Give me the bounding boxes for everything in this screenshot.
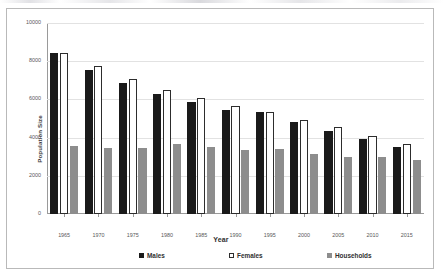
bar-females-2005: [334, 127, 342, 214]
bar-males-1965: [50, 53, 58, 214]
chart-legend: MalesFemalesHouseholds: [7, 252, 435, 264]
bar-males-1970: [85, 70, 93, 214]
x-axis-tick: [304, 214, 305, 217]
y-axis-tick-label: 8000: [1, 61, 41, 66]
y-axis-tick-label: 0: [1, 214, 41, 219]
bar-households-2005: [344, 157, 352, 214]
bar-females-1990: [231, 106, 239, 214]
bar-group: [324, 23, 352, 214]
bar-males-2010: [359, 139, 367, 214]
y-axis-tick-label: 10000: [1, 23, 41, 28]
x-axis-tick: [373, 214, 374, 217]
legend-item-males[interactable]: Males: [139, 252, 165, 259]
bar-males-1995: [256, 112, 264, 214]
bar-group: [50, 23, 78, 214]
x-axis-tick: [133, 214, 134, 217]
outline-white-square-icon: [229, 253, 234, 258]
bar-females-1965: [60, 53, 68, 214]
bar-group: [85, 23, 113, 214]
y-axis-tick-label: 4000: [1, 138, 41, 143]
bar-females-2010: [368, 136, 376, 214]
bar-group: [359, 23, 387, 214]
bar-males-1985: [187, 102, 195, 214]
legend-label: Households: [335, 252, 372, 259]
bar-households-1980: [173, 144, 181, 214]
bar-females-1985: [197, 98, 205, 214]
bar-females-1995: [266, 112, 274, 214]
x-axis-title: Year: [7, 236, 435, 243]
bar-group: [256, 23, 284, 214]
bar-males-1975: [119, 83, 127, 214]
legend-item-females[interactable]: Females: [229, 252, 263, 259]
bar-households-1985: [207, 147, 215, 214]
bar-group: [222, 23, 250, 214]
x-axis-tick: [64, 214, 65, 217]
bar-households-1970: [104, 148, 112, 214]
scan-artifact: [0, 0, 443, 3]
bar-females-1975: [129, 79, 137, 214]
bar-males-2005: [324, 131, 332, 214]
bar-group: [153, 23, 181, 214]
y-axis-line: [47, 23, 48, 214]
x-axis-tick: [167, 214, 168, 217]
chart-frame: Population Size 020004000600080001000019…: [6, 8, 434, 269]
chart-figure: Population Size 020004000600080001000019…: [0, 0, 443, 277]
bar-males-1980: [153, 94, 161, 214]
plot-area: 0200040006000800010000196519701975198019…: [47, 23, 424, 214]
x-axis-tick: [407, 214, 408, 217]
bar-group: [290, 23, 318, 214]
legend-label: Males: [147, 252, 165, 259]
y-axis-tick-label: 6000: [1, 99, 41, 104]
bar-group: [393, 23, 421, 214]
bar-households-1975: [138, 148, 146, 214]
bar-group: [119, 23, 147, 214]
x-axis-tick: [338, 214, 339, 217]
bar-households-1965: [70, 146, 78, 214]
bar-males-1990: [222, 110, 230, 214]
bar-households-1995: [275, 149, 283, 214]
bar-males-2000: [290, 122, 298, 214]
bar-females-1970: [94, 66, 102, 214]
x-axis-tick: [201, 214, 202, 217]
x-axis-tick: [236, 214, 237, 217]
legend-label: Females: [237, 252, 263, 259]
bar-males-2015: [393, 147, 401, 214]
bar-households-1990: [241, 150, 249, 214]
bar-females-2000: [300, 120, 308, 214]
bar-households-2010: [378, 157, 386, 214]
bar-households-2015: [413, 160, 421, 214]
bar-households-2000: [310, 154, 318, 214]
filled-gray-square-icon: [327, 253, 332, 258]
x-axis-tick: [98, 214, 99, 217]
bar-females-2015: [403, 144, 411, 214]
filled-black-square-icon: [139, 253, 144, 258]
y-axis-tick-label: 2000: [1, 176, 41, 181]
bar-group: [187, 23, 215, 214]
x-axis-tick: [270, 214, 271, 217]
bar-females-1980: [163, 90, 171, 214]
legend-item-households[interactable]: Households: [327, 252, 372, 259]
